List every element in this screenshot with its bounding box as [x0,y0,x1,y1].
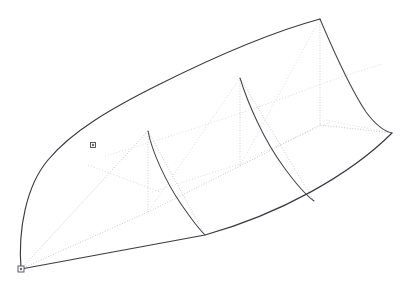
iso-diag-hatch-2 [152,160,252,192]
iso-diag-lower-2 [148,166,240,212]
iso-diag-upper-2 [240,19,320,166]
iso-diag-hatch-1 [88,165,160,192]
control-point-group[interactable] [18,143,96,273]
iso-diag-cross-3 [148,131,205,235]
surface-rib-group [148,19,392,235]
isoline-group-lower-rail [21,125,392,269]
boundary-bottom-rail [21,133,392,269]
isoline-group-cross [21,19,320,269]
control-point-origin-core [20,268,22,270]
iso-diag-cross-1 [21,131,148,269]
iso-diag-lower-3 [240,125,320,166]
control-point-left-edge-core [92,144,94,146]
iso-diag-upper-1 [148,78,240,212]
iso-diag-mid-rail [105,64,382,156]
rib-3 [320,19,392,133]
wireframe-canvas[interactable] [0,0,415,290]
iso-diag-hatch-3 [250,122,330,158]
iso-diag-lower-1 [21,212,148,269]
iso-diag-cross-4 [240,78,314,201]
surface-viewport [0,0,415,290]
boundary-top-rail [20,19,320,269]
iso-diag-hatch-4 [326,120,392,133]
